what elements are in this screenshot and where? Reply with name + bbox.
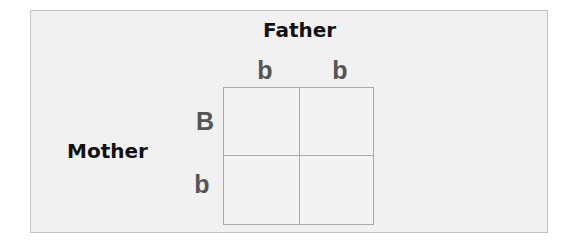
punnett-cell-r1-c2 — [300, 88, 373, 156]
mother-allele-1: B — [193, 109, 217, 134]
punnett-cell-r2-c1 — [224, 156, 300, 224]
mother-label: Mother — [67, 141, 148, 161]
punnett-cell-r1-c1 — [224, 88, 300, 156]
mother-allele-2: b — [190, 172, 214, 197]
father-allele-2: b — [328, 58, 352, 83]
father-allele-1: b — [253, 58, 277, 83]
punnett-cell-r2-c2 — [300, 156, 373, 224]
punnett-grid — [223, 87, 374, 225]
father-label: Father — [263, 20, 336, 40]
